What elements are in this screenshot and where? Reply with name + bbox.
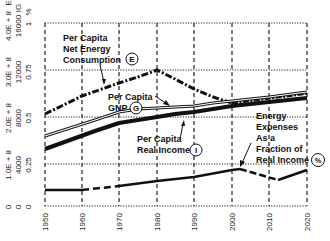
e-tick-4: 4.0E + 8 (4, 10, 13, 41)
pct-tick-4: 1 (24, 21, 33, 26)
svg-text:E: E (129, 55, 135, 64)
y-axis-labels: 0 1.0E + 8 2.0E + 8 3.0E + 8 4.0E + 8 E … (4, 0, 33, 209)
pct-tick-0: 0 (24, 204, 33, 209)
svg-text:Per Capita: Per Capita (137, 134, 183, 144)
x-tick-2000: 2000 (228, 213, 237, 231)
x-tick-1990: 1990 (190, 213, 199, 231)
e-tick-1: 1.0E + 8 (4, 149, 13, 180)
svg-text:I: I (195, 146, 197, 155)
e-tick-0: 0 (4, 204, 13, 209)
pct-unit: % (24, 8, 33, 15)
x-tick-2020: 2020 (303, 213, 312, 231)
svg-text:As a: As a (256, 133, 276, 143)
x-tick-1980: 1980 (153, 213, 162, 231)
ig-tick-3: 12000 (14, 60, 23, 83)
annotation-gnp: Per Capita GNP G (108, 92, 170, 114)
pct-tick-2: 0.5 (24, 112, 33, 124)
svg-text:Expenses: Expenses (256, 122, 298, 132)
x-tick-2010: 2010 (265, 213, 274, 231)
ig-tick-0: 0 (14, 204, 23, 209)
svg-text:Real Income: Real Income (256, 155, 309, 165)
svg-text:Real Income: Real Income (137, 145, 190, 155)
x-axis-labels: 1950 1960 1970 1980 1990 2000 2010 2020 (41, 213, 312, 231)
e-tick-2: 2.0E + 8 (4, 102, 13, 133)
arrow-expenses (242, 143, 251, 163)
svg-text:%: % (315, 156, 322, 165)
ig-tick-2: 8000 (14, 109, 23, 127)
x-tick-1950: 1950 (41, 213, 50, 231)
annotation-energy-expenses: Energy Expenses As a Fraction of Real In… (240, 111, 325, 167)
svg-text:Energy: Energy (256, 111, 287, 121)
annotation-real-income: Per Capita Real Income I (137, 120, 202, 156)
chart: 0 1.0E + 8 2.0E + 8 3.0E + 8 4.0E + 8 E … (0, 0, 330, 241)
x-tick-1970: 1970 (115, 213, 124, 231)
ig-tick-4: 16000 (14, 14, 23, 37)
svg-text:Consumption: Consumption (63, 55, 121, 65)
svg-text:GNP: GNP (108, 103, 128, 113)
svg-text:Per Capita: Per Capita (63, 33, 109, 43)
svg-text:Fraction of: Fraction of (256, 144, 304, 154)
series-energy-expenses (45, 169, 307, 190)
x-tick-1960: 1960 (78, 213, 87, 231)
ig-tick-1: 4000 (14, 156, 23, 174)
ig-unit: IG (14, 4, 23, 12)
annotation-energy: Per Capita Net Energy Consumption E (63, 33, 138, 85)
e-unit: E (4, 0, 13, 5)
e-tick-3: 3.0E + 8 (4, 56, 13, 87)
svg-text:Net Energy: Net Energy (63, 44, 111, 54)
pct-tick-1: 0.25 (24, 157, 33, 173)
svg-text:G: G (133, 104, 139, 113)
pct-tick-3: 0.75 (24, 64, 33, 80)
svg-text:Per Capita: Per Capita (108, 92, 154, 102)
